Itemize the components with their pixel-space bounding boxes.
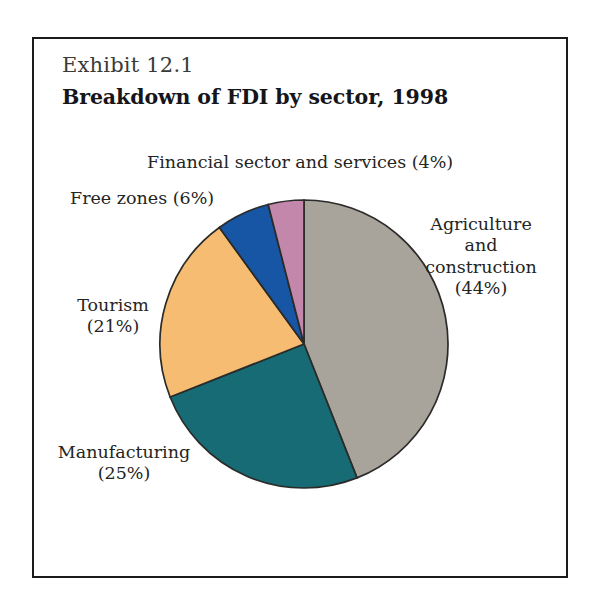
pie-chart: Financial sector and services (4%) Free … (34, 39, 570, 580)
figure-frame: Exhibit 12.1 Breakdown of FDI by sector,… (32, 37, 568, 578)
pie-label-financial-sector-and-services: Financial sector and services (4%) (147, 152, 453, 173)
pie-label-free-zones: Free zones (6%) (70, 188, 214, 209)
pie-label-tourism: Tourism (21%) (52, 295, 174, 338)
pie-label-manufacturing: Manufacturing (25%) (36, 442, 212, 485)
pie-label-agriculture-and-construction: Agriculture and construction (44%) (408, 214, 554, 299)
